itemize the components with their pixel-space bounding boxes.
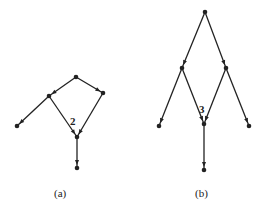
- node: [203, 10, 208, 15]
- node: [180, 66, 185, 71]
- edge: [226, 68, 249, 126]
- edge: [205, 12, 226, 68]
- arrowhead-icon: [75, 160, 79, 165]
- node: [202, 122, 207, 127]
- arrowhead-icon: [95, 87, 100, 91]
- caption-b: (b): [195, 187, 208, 199]
- edge: [182, 12, 205, 68]
- node: [101, 91, 106, 96]
- edge: [159, 68, 182, 126]
- arrowhead-icon: [79, 129, 83, 134]
- arrowhead-icon: [160, 118, 164, 123]
- arrowhead-icon: [199, 116, 203, 121]
- node-label-b: 3: [199, 103, 205, 115]
- arrowhead-icon: [244, 118, 248, 123]
- node: [47, 94, 52, 99]
- node: [247, 124, 252, 129]
- edge: [182, 68, 204, 124]
- arrowhead-icon: [202, 162, 206, 167]
- arrowhead-icon: [205, 116, 209, 121]
- arrowhead-icon: [221, 60, 225, 65]
- diagram-figure: 2 3 (a) (b): [0, 0, 260, 209]
- node: [224, 66, 229, 71]
- node: [74, 75, 79, 80]
- edge: [204, 68, 226, 124]
- node-label-a: 2: [70, 115, 76, 127]
- node: [157, 124, 162, 129]
- node: [75, 166, 80, 171]
- node: [202, 168, 207, 173]
- node: [75, 135, 80, 140]
- caption-a: (a): [54, 187, 66, 199]
- node: [15, 124, 20, 129]
- arrowhead-icon: [183, 60, 187, 65]
- graph-drawings: [0, 0, 260, 209]
